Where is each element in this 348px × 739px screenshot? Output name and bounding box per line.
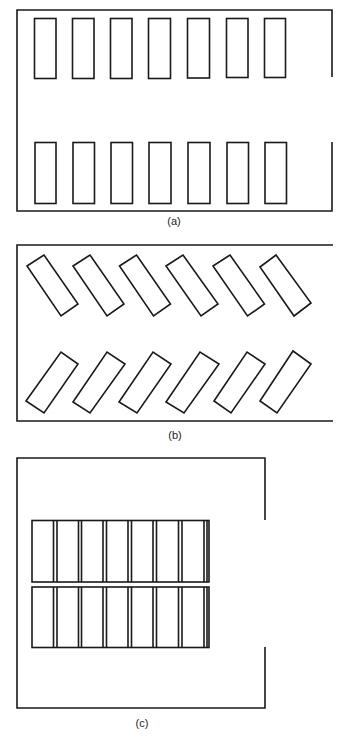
stall — [188, 19, 210, 79]
stall — [111, 19, 133, 79]
panel-b — [17, 245, 333, 421]
angled-stall — [166, 255, 218, 316]
stall — [265, 143, 287, 204]
angled-stall — [27, 255, 78, 316]
angled-stall — [73, 255, 124, 316]
stall — [227, 143, 249, 204]
panel-b-bottom-row — [26, 351, 311, 413]
panel-c — [17, 458, 265, 708]
stall — [73, 19, 95, 79]
stall — [73, 143, 95, 204]
angled-stall — [214, 352, 265, 413]
angled-stall — [213, 255, 265, 316]
angled-stall — [260, 351, 311, 413]
panel-c-block-lower — [32, 587, 209, 648]
angled-stall — [260, 255, 311, 316]
panel-a-bottom-row — [35, 143, 287, 204]
panel-b-boundary — [17, 245, 333, 421]
panel-b-top-row — [27, 255, 311, 316]
angled-stall — [166, 352, 219, 413]
stall — [149, 143, 171, 204]
angled-stall — [73, 352, 125, 413]
stall — [227, 19, 249, 78]
panel-c-boundary — [17, 458, 265, 708]
panel-c-label: (c) — [136, 717, 149, 729]
stall — [265, 19, 286, 78]
panel-a-top-row — [35, 19, 286, 79]
panel-c-block-upper — [32, 521, 209, 583]
stall — [188, 143, 210, 204]
parking-layouts-diagram — [0, 0, 348, 739]
angled-stall — [119, 352, 171, 413]
panel-b-label: (b) — [168, 429, 181, 441]
stall — [35, 143, 56, 204]
angled-stall — [120, 255, 171, 316]
stall — [149, 19, 171, 79]
panel-a — [17, 10, 332, 211]
stall — [35, 19, 57, 79]
panel-a-label: (a) — [167, 215, 180, 227]
stall — [111, 143, 133, 204]
angled-stall — [26, 352, 78, 413]
